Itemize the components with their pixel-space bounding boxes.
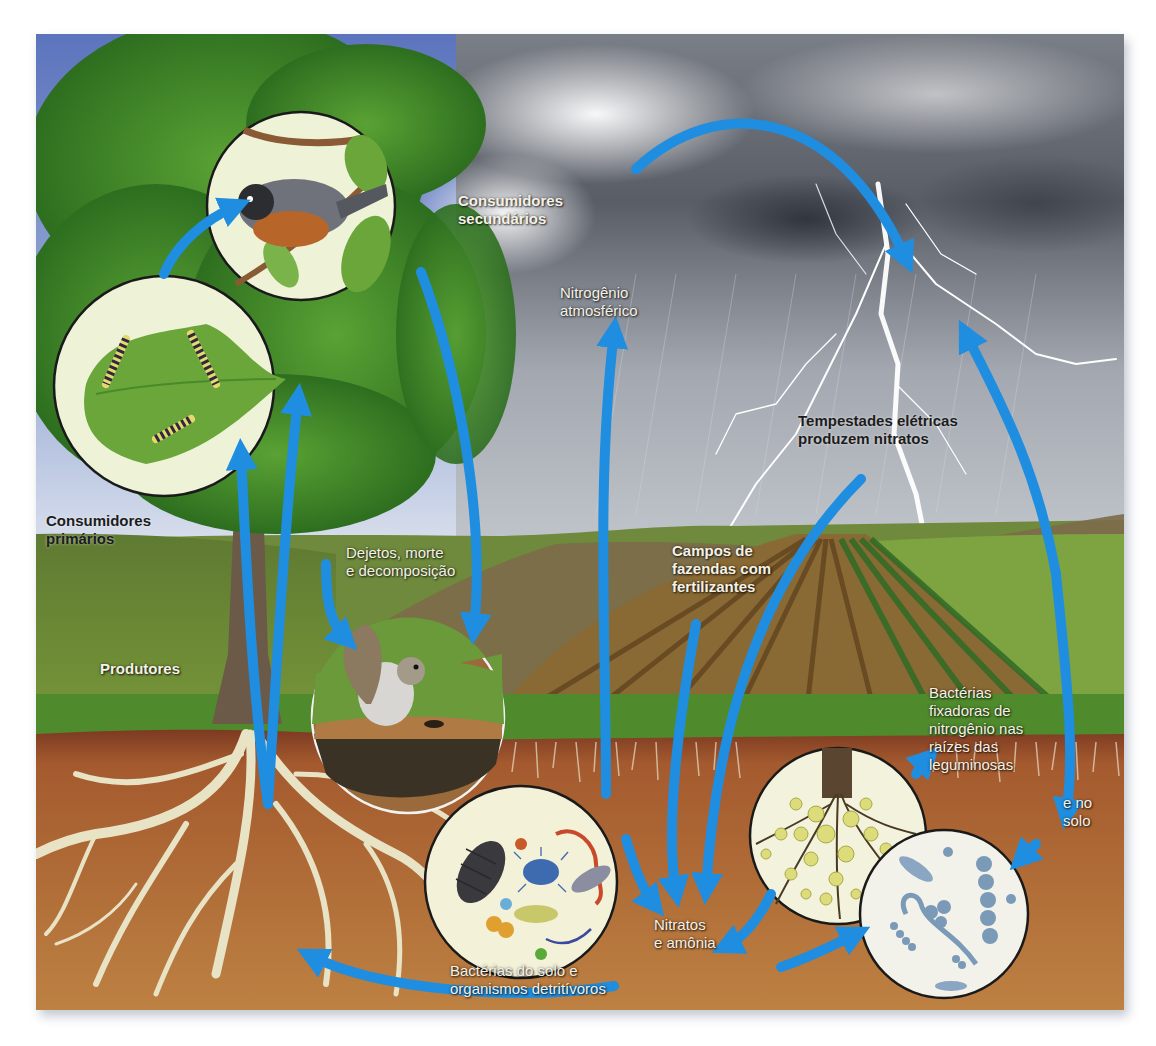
label-producers: Produtores <box>100 660 180 678</box>
diagram-canvas <box>36 34 1124 1010</box>
label-waste-death-decomposition: Dejetos, morte e decomposição <box>346 544 455 580</box>
inset-squirrel <box>312 617 504 813</box>
label-electrical-storms: Tempestades elétricas produzem nitratos <box>798 412 958 448</box>
label-soil-bacteria-detritivores: Bactérias do solo e organismos detritívo… <box>450 962 606 998</box>
label-legume-root-bacteria: Bactérias fixadoras de nitrogênio nas ra… <box>929 684 1023 774</box>
label-fertilized-farm-fields: Campos de fazendas com fertilizantes <box>672 542 771 596</box>
inset-soil-organisms <box>425 786 617 978</box>
label-secondary-consumers: Consumidores secundários <box>458 192 563 228</box>
inset-soil-bacteria <box>860 830 1028 998</box>
nitrogen-cycle-illustration: Consumidores secundários Nitrogênio atmo… <box>36 34 1124 1010</box>
label-atmospheric-nitrogen: Nitrogênio atmosférico <box>560 284 638 320</box>
label-primary-consumers: Consumidores primários <box>46 512 151 548</box>
label-nitrates-ammonia: Nitratos e amônia <box>654 916 716 952</box>
label-and-in-soil: e no solo <box>1063 794 1092 830</box>
